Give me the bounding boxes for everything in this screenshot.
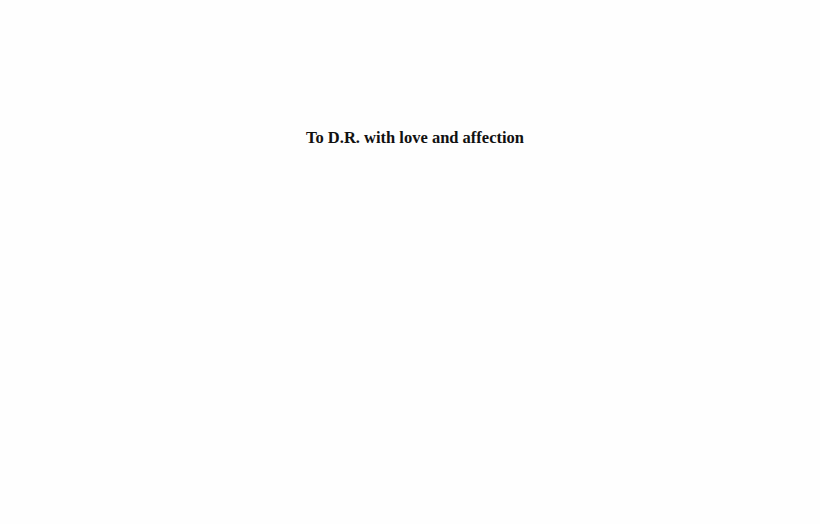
book-page: To D.R. with love and affection — [0, 0, 820, 524]
dedication-text: To D.R. with love and affection — [0, 128, 820, 148]
